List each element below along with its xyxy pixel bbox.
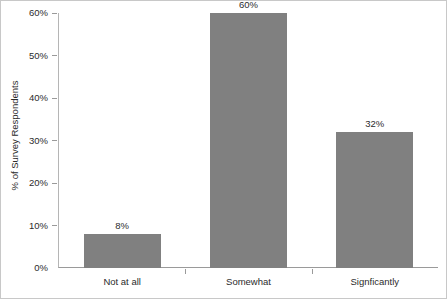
- bar[interactable]: 8%: [84, 234, 161, 268]
- x-axis-category-label: Signficantly: [312, 273, 438, 291]
- x-axis-category-label: Not at all: [59, 273, 185, 291]
- y-axis-tick-mark: [52, 183, 57, 184]
- y-axis-tick-mark: [52, 98, 57, 99]
- bar-value-label: 8%: [115, 220, 129, 231]
- y-axis-tick: 50%: [29, 50, 58, 62]
- bar[interactable]: 60%: [210, 13, 287, 268]
- y-axis-tick: 30%: [29, 135, 58, 147]
- bar-slot: 60%: [185, 13, 311, 268]
- y-axis-tick-label: 50%: [29, 50, 48, 62]
- y-axis-tick-spacer: [52, 268, 57, 269]
- bar-chart: % of Survey Respondents 0%10%20%30%40%50…: [0, 0, 447, 299]
- bar-value-label: 32%: [365, 118, 384, 129]
- bar-slot: 8%: [59, 13, 185, 268]
- bar-slot: 32%: [312, 13, 438, 268]
- y-axis-tick: 0%: [34, 262, 58, 274]
- y-axis-tick-label: 0%: [34, 262, 48, 274]
- y-axis-ticks: 0%10%20%30%40%50%60%: [1, 13, 58, 268]
- y-axis-tick-label: 60%: [29, 7, 48, 19]
- y-axis-tick: 40%: [29, 92, 58, 104]
- y-axis-tick-mark: [52, 140, 57, 141]
- x-axis-labels: Not at allSomewhatSignficantly: [59, 273, 438, 291]
- bar[interactable]: 32%: [336, 132, 413, 268]
- y-axis-tick-label: 40%: [29, 92, 48, 104]
- y-axis-tick-mark: [52, 55, 57, 56]
- y-axis-tick-label: 10%: [29, 220, 48, 232]
- x-axis-category-label: Somewhat: [185, 273, 311, 291]
- y-axis-tick: 20%: [29, 177, 58, 189]
- y-axis-tick-label: 30%: [29, 135, 48, 147]
- y-axis-tick: 60%: [29, 7, 58, 19]
- y-axis-tick-mark: [52, 225, 57, 226]
- y-axis-tick-label: 20%: [29, 177, 48, 189]
- y-axis-tick-mark: [52, 13, 57, 14]
- bar-value-label: 60%: [239, 0, 258, 10]
- bars-layer: 8%60%32%: [59, 13, 438, 268]
- y-axis-tick: 10%: [29, 220, 58, 232]
